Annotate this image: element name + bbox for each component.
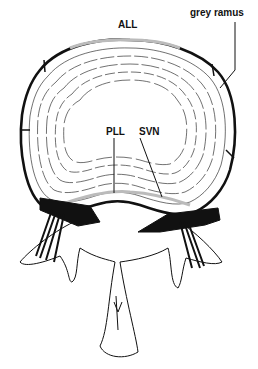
intervertebral-disc bbox=[21, 40, 235, 215]
label-grey-ramus: grey ramus bbox=[190, 8, 244, 18]
anatomical-diagram: ALL grey ramus PLL SVN bbox=[0, 0, 258, 369]
label-all: ALL bbox=[118, 20, 137, 30]
vertebra-posterior-elements bbox=[20, 215, 222, 357]
label-svn: SVN bbox=[139, 127, 160, 137]
label-pll: PLL bbox=[106, 127, 125, 137]
